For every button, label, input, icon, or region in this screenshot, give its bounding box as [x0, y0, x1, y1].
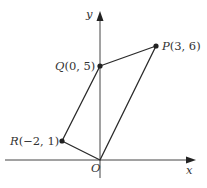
origin-label: O: [91, 161, 101, 175]
point-P-label: P(3, 6): [161, 39, 201, 53]
x-axis-label: x: [186, 163, 193, 177]
y-axis-arrow-icon: [97, 11, 104, 21]
y-axis-label: y: [85, 7, 93, 21]
point-R-label: R(−2, 1): [9, 134, 59, 148]
point-R-coords: (−2, 1): [19, 134, 60, 148]
point-R-dot: [59, 138, 64, 143]
point-Q-label: Q(0, 5): [55, 59, 95, 73]
point-Q-coords: (0, 5): [64, 59, 95, 73]
point-P-name: P: [161, 39, 170, 53]
point-R-name: R: [9, 134, 19, 148]
point-Q-dot: [97, 63, 102, 68]
point-P-dot: [153, 43, 158, 48]
point-P-coords: (3, 6): [170, 39, 201, 53]
axes: [5, 11, 196, 178]
coordinate-diagram: y x O P(3, 6) Q(0, 5) R(−2, 1): [0, 0, 207, 188]
